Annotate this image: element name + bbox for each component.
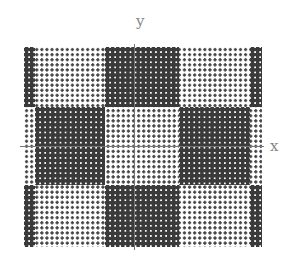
y-axis-line <box>134 44 135 250</box>
dark-block-bottom-middle <box>105 185 179 247</box>
dark-block-bottom-right-strip <box>250 185 262 247</box>
x-axis-label: x <box>270 137 278 155</box>
x-axis-line <box>20 146 264 147</box>
y-axis-label: y <box>136 12 144 30</box>
dark-block-top-right-strip <box>250 47 262 107</box>
dark-block-top-left-strip <box>24 47 35 107</box>
dot-grid-field <box>24 47 262 247</box>
dark-block-bottom-left-strip <box>24 185 35 247</box>
dark-block-top-middle <box>105 47 179 107</box>
